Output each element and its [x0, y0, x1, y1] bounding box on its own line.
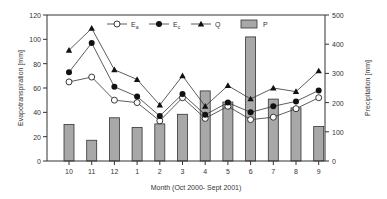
bar	[132, 127, 142, 161]
y2-axis-title: Precipitation [mm]	[364, 60, 372, 116]
marker-filled-circle	[180, 91, 186, 97]
legend-label: P	[263, 21, 268, 28]
marker-triangle	[225, 82, 231, 88]
marker-open-circle	[66, 79, 72, 85]
marker-filled-circle	[270, 103, 276, 109]
x-tick-label: 4	[203, 168, 207, 175]
series-line	[69, 28, 319, 106]
marker-open-circle	[89, 74, 95, 80]
x-tick-label: 7	[271, 168, 275, 175]
legend: EaEcQP	[107, 20, 268, 30]
y-tick-label: 20	[33, 134, 41, 141]
marker-filled-circle	[248, 109, 254, 115]
marker-triangle	[316, 68, 322, 74]
x-tick-label: 5	[226, 168, 230, 175]
bar	[314, 127, 324, 161]
marker-filled-circle	[66, 69, 72, 75]
y-tick-label: 40	[33, 109, 41, 116]
series-line	[69, 43, 319, 116]
bar	[109, 118, 119, 161]
x-tick-label: 6	[249, 168, 253, 175]
y2-tick-label: 0	[332, 158, 336, 165]
marker-open-circle	[114, 21, 120, 27]
y2-tick-label: 500	[332, 12, 344, 19]
bar	[64, 125, 74, 162]
marker-filled-circle	[157, 113, 163, 119]
marker-triangle	[111, 66, 117, 72]
marker-triangle	[270, 85, 276, 91]
y-axis-title: Evapotranspiration [mm]	[17, 50, 25, 126]
legend-label: Ec	[173, 21, 181, 30]
marker-filled-circle	[156, 21, 162, 27]
x-tick-label: 12	[111, 168, 119, 175]
marker-open-circle	[293, 106, 299, 112]
bar	[223, 102, 233, 161]
bar	[155, 124, 165, 161]
y-tick-label: 0	[37, 158, 41, 165]
marker-filled-circle	[316, 87, 322, 93]
y2-tick-label: 100	[332, 129, 344, 136]
x-tick-label: 8	[294, 168, 298, 175]
x-axis-title: Month (Oct 2000- Sept 2001)	[151, 184, 242, 192]
x-tick-label: 11	[88, 168, 95, 175]
bar	[87, 140, 97, 161]
x-tick-label: 9	[317, 168, 321, 175]
marker-filled-circle	[89, 40, 95, 46]
marker-open-circle	[316, 95, 322, 101]
y2-tick-label: 200	[332, 100, 344, 107]
y-tick-label: 80	[33, 61, 41, 68]
y-tick-label: 100	[29, 36, 41, 43]
marker-open-circle	[134, 100, 140, 106]
y2-tick-label: 400	[332, 41, 344, 48]
legend-label: Q	[215, 21, 221, 29]
y-tick-label: 60	[33, 85, 41, 92]
x-tick-label: 10	[65, 168, 73, 175]
marker-filled-circle	[111, 84, 117, 90]
marker-open-circle	[270, 114, 276, 120]
x-tick-label: 2	[158, 168, 162, 175]
marker-filled-circle	[293, 98, 299, 104]
y-tick-label: 120	[29, 12, 41, 19]
marker-filled-circle	[202, 112, 208, 118]
marker-filled-circle	[225, 100, 231, 106]
series-ea	[66, 74, 322, 124]
x-tick-label: 1	[135, 168, 139, 175]
bar	[178, 114, 188, 161]
bar	[291, 108, 301, 161]
x-tick-label: 3	[181, 168, 185, 175]
legend-swatch	[241, 20, 257, 28]
marker-triangle	[134, 76, 140, 82]
marker-triangle	[198, 21, 204, 27]
combo-chart: 0204060801001200100200300400500101112123…	[0, 0, 387, 199]
marker-open-circle	[248, 117, 254, 123]
marker-open-circle	[111, 97, 117, 103]
marker-triangle	[89, 25, 95, 31]
marker-triangle	[179, 73, 185, 79]
chart-container: 0204060801001200100200300400500101112123…	[0, 0, 387, 199]
legend-label: Ea	[131, 21, 139, 30]
y2-tick-label: 300	[332, 70, 344, 77]
precipitation-bars	[64, 37, 324, 161]
series-line	[69, 77, 319, 121]
marker-filled-circle	[134, 94, 140, 100]
